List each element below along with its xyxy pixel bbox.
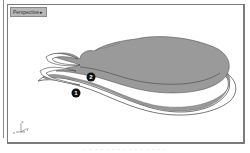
y-axis-line [21, 129, 26, 132]
callout-2[interactable]: 2 [87, 73, 96, 82]
x-axis-label: x [13, 130, 15, 135]
axis-widget: x y z [11, 119, 31, 137]
left-panel-edge [3, 0, 4, 138]
z-axis-label: z [22, 119, 24, 124]
perspective-viewport[interactable]: Perspective ▸ 2 1 x y z [7, 4, 245, 144]
callout-1[interactable]: 1 [72, 89, 81, 98]
3d-model-scene[interactable]: 2 1 [8, 5, 244, 143]
caption-strip: · · · · · · · · · · · · · · · [0, 146, 250, 153]
y-axis-label: y [27, 126, 29, 131]
